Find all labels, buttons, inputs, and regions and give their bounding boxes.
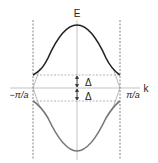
upper-gap-label: Δ <box>85 77 92 88</box>
lower-band-curve <box>33 101 120 151</box>
lower-gap-label: Δ <box>85 91 92 102</box>
k-axis-label: k <box>144 83 150 94</box>
upper-band-curve <box>33 25 120 75</box>
energy-axis-label: E <box>74 8 81 19</box>
left-boundary-label: −π/a <box>10 90 29 100</box>
right-boundary-label: π/a <box>126 90 140 100</box>
band-structure-diagram: E k −π/a π/a Δ Δ <box>0 0 158 163</box>
upper-gap-arrow <box>76 76 79 87</box>
lower-gap-arrow <box>76 89 79 100</box>
